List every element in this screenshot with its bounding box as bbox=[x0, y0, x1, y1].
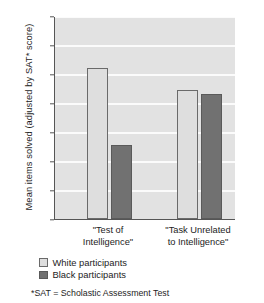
bar bbox=[201, 94, 222, 219]
y-axis-tick-mark bbox=[50, 190, 54, 191]
gridline bbox=[55, 74, 235, 75]
y-axis-tick-mark bbox=[50, 132, 54, 133]
x-axis-category-label: "Task Unrelatedto Intelligence" bbox=[138, 224, 258, 249]
y-axis-tick-mark bbox=[50, 103, 54, 104]
legend-item[interactable]: White participants bbox=[39, 256, 127, 269]
y-axis-title: Mean items solved (adjusted by SAT* scor… bbox=[24, 15, 34, 220]
legend-item[interactable]: Black participants bbox=[39, 269, 127, 282]
y-axis-tick-mark bbox=[50, 74, 54, 75]
bar bbox=[111, 145, 132, 219]
gridline bbox=[55, 45, 235, 46]
bar bbox=[87, 68, 108, 219]
y-axis-tick-mark bbox=[50, 219, 54, 220]
plot-area-wrapper: 02468101214 bbox=[54, 17, 235, 220]
bar-chart-figure: Mean items solved (adjusted by SAT* scor… bbox=[0, 0, 264, 303]
legend-swatch-icon bbox=[39, 271, 48, 280]
legend-label: White participants bbox=[53, 257, 128, 268]
y-axis-tick-mark bbox=[50, 16, 54, 17]
chart-footnote: *SAT = Scholastic Assessment Test bbox=[31, 288, 169, 298]
y-axis-tick-mark bbox=[50, 45, 54, 46]
y-axis-tick-mark bbox=[50, 161, 54, 162]
legend-label: Black participants bbox=[53, 269, 126, 280]
x-axis-label-line: "Task Unrelated bbox=[138, 224, 258, 236]
legend-swatch-icon bbox=[39, 258, 48, 267]
plot-area bbox=[54, 17, 235, 220]
bar bbox=[177, 90, 198, 219]
chart-legend: White participantsBlack participants bbox=[39, 256, 127, 281]
gridline bbox=[55, 17, 235, 18]
x-axis-label-line: to Intelligence" bbox=[138, 236, 258, 248]
